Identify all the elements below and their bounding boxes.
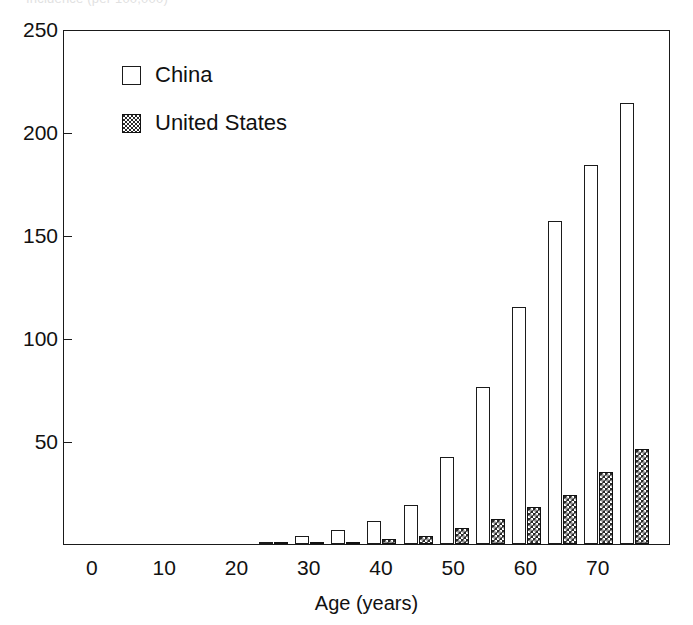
legend-item-united-states: United States (122, 110, 287, 136)
x-tick-label: 0 (86, 557, 98, 578)
x-tick-label: 60 (514, 557, 537, 578)
bar-china (259, 542, 273, 544)
bar-china (620, 103, 634, 544)
bar-united-states (419, 536, 433, 544)
bar-united-states (635, 449, 649, 544)
bar-china (512, 307, 526, 544)
x-tick-label: 50 (442, 557, 465, 578)
x-tick-label: 10 (152, 557, 175, 578)
x-tick-label: 20 (225, 557, 248, 578)
bar-china (476, 387, 490, 544)
bar-china (440, 457, 454, 544)
x-axis-title: Age (years) (63, 592, 670, 615)
legend-label-united-states: United States (155, 112, 287, 134)
bar-china (367, 521, 381, 544)
bar-united-states (599, 472, 613, 544)
bar-united-states (382, 539, 396, 544)
legend-label-china: China (155, 64, 212, 86)
bar-united-states (310, 542, 324, 544)
y-tick-mark (63, 442, 72, 443)
y-tick-mark (63, 133, 72, 134)
bar-china (548, 221, 562, 544)
bar-china (404, 505, 418, 544)
bar-united-states (274, 542, 288, 544)
bar-united-states (563, 495, 577, 544)
y-tick-mark (63, 339, 72, 340)
chart-root: Incidence (per 100,000) 50100150200250 0… (0, 0, 693, 625)
bar-united-states (491, 519, 505, 544)
x-tick-label: 30 (297, 557, 320, 578)
x-tick-label: 70 (586, 557, 609, 578)
bar-china (584, 165, 598, 544)
legend-item-china: China (122, 62, 287, 88)
bar-china (331, 530, 345, 544)
chart-legend: China United States (122, 62, 287, 158)
bar-united-states (455, 528, 469, 544)
y-tick-mark (63, 236, 72, 237)
x-tick-label: 40 (369, 557, 392, 578)
bar-china (295, 536, 309, 544)
legend-swatch-china-icon (122, 66, 141, 85)
bar-united-states (527, 507, 541, 544)
y-tick-mark (63, 30, 72, 31)
legend-swatch-united-states-icon (122, 114, 141, 133)
bar-united-states (346, 542, 360, 544)
